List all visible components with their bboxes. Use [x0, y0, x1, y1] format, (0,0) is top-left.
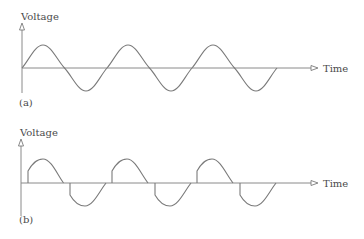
panel-b-x-axis-arrow-icon: [311, 181, 318, 186]
panel-b-label: (b): [19, 214, 33, 225]
panel-a-x-axis-arrow-icon: [311, 66, 318, 71]
panel-a-y-axis-label: Voltage: [20, 11, 59, 22]
panel-a-y-axis-arrow-icon: [20, 23, 25, 30]
panel-a-label: (a): [19, 97, 33, 108]
voltage-waveform-diagram: Voltage Time (a) Voltage Time (b): [0, 0, 364, 239]
panel-b-x-axis-label: Time: [323, 178, 348, 189]
panel-a-x-axis-label: Time: [323, 63, 348, 74]
panel-b: Voltage Time (b): [19, 127, 349, 225]
panel-a: Voltage Time (a): [19, 11, 348, 108]
panel-b-y-axis-label: Voltage: [19, 127, 58, 138]
panel-b-y-axis-arrow-icon: [19, 139, 24, 146]
